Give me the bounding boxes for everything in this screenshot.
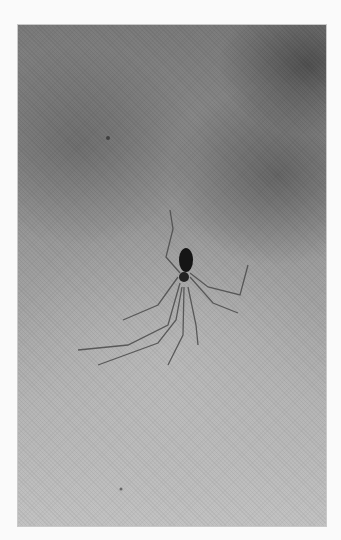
- spider-abdomen: [179, 248, 193, 272]
- spider-legs: [78, 210, 248, 365]
- spider-cephalothorax: [179, 272, 189, 282]
- dust-speck: [120, 488, 123, 491]
- photograph: [17, 24, 327, 527]
- dust-speck: [106, 136, 110, 140]
- spider: [18, 25, 327, 527]
